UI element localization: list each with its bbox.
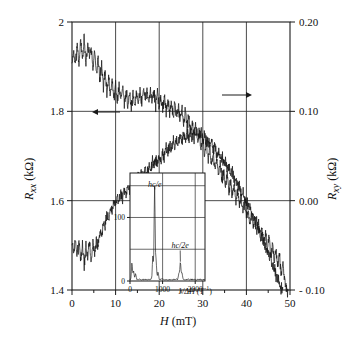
inset-x-close: ) — [209, 287, 212, 296]
inset-x-axis-label: 1/ΔH (T-1) — [178, 285, 212, 296]
y-right-unit: (kΩ) — [325, 158, 339, 184]
left-axis-arrow-head — [92, 109, 98, 115]
y-left-symbol: R — [22, 193, 36, 200]
y-left-tick-label: 1.6 — [50, 195, 64, 207]
inset-x-tick-label: 0 — [128, 285, 132, 294]
y-left-tick-label: 1.8 — [50, 105, 64, 117]
x-tick-label: 0 — [69, 297, 75, 309]
x-tick-label: 10 — [110, 297, 122, 309]
y-axis-right-label: Rxy (kΩ) — [325, 158, 341, 200]
magnetoresistance-plot: 0102030405021.81.61.40.200.100.00- 0.100… — [0, 0, 344, 344]
inset-y-tick-label: 0 — [121, 277, 125, 286]
y-right-symbol: R — [325, 193, 339, 200]
x-tick-label: 30 — [197, 297, 209, 309]
y-left-tick-label: 2 — [59, 16, 65, 28]
right-axis-arrow-head — [246, 92, 252, 98]
y-right-tick-label: 0.10 — [299, 105, 319, 117]
y-left-subscript: xx — [27, 184, 38, 193]
y-left-tick-label: 1.4 — [50, 284, 64, 296]
inset-y-tick-label: 100 — [114, 213, 126, 222]
inset-frame — [130, 173, 205, 281]
y-right-tick-label: - 0.10 — [299, 284, 325, 296]
y-right-tick-label: 0.00 — [299, 195, 319, 207]
y-right-tick-label: 0.20 — [299, 16, 319, 28]
inset-x-tick-label: 1000 — [155, 285, 170, 294]
x-axis-symbol: H — [160, 314, 169, 328]
x-tick-label: 50 — [285, 297, 297, 309]
x-axis-label: H (mT) — [160, 314, 196, 329]
y-left-unit: (kΩ) — [22, 158, 36, 184]
x-axis-unit: (mT) — [169, 314, 197, 328]
x-tick-label: 40 — [241, 297, 253, 309]
y-axis-left-label: Rxx (kΩ) — [22, 158, 38, 200]
inset-x-unit: (T — [195, 287, 205, 296]
inset-x-symbol: 1/ΔH — [178, 287, 195, 296]
figure-container: 0102030405021.81.61.40.200.100.00- 0.100… — [0, 0, 344, 344]
inset-annotation-label: hc/2e — [172, 241, 190, 250]
x-tick-label: 20 — [154, 297, 166, 309]
y-right-subscript: xy — [330, 184, 341, 193]
